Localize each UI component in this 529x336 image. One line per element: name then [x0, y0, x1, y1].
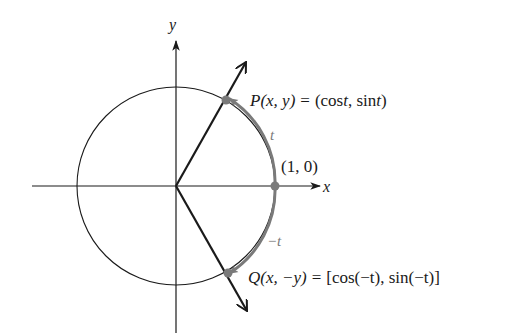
point-q-name: Q — [248, 268, 260, 287]
point-p-equals: = — [300, 91, 310, 110]
arc-negative-t — [229, 186, 275, 274]
arc-positive-t — [229, 99, 275, 187]
ray-to-q — [176, 186, 247, 311]
point-q-value: [cos(−t), sin(−t)] — [326, 268, 440, 287]
y-axis-label: y — [167, 16, 177, 34]
start-point-label: (1, 0) — [281, 157, 318, 176]
arc-label-t: t — [270, 127, 275, 143]
point-p-args: (x, y) — [260, 91, 295, 110]
ray-to-p — [176, 62, 246, 186]
point-q-label: Q(x, −y)=[cos(−t), sin(−t)] — [248, 268, 440, 287]
point-q-equals: = — [312, 268, 322, 287]
point-q-args: (x, −y) — [260, 268, 307, 287]
point-p-marker — [222, 96, 231, 105]
point-p-value-close: ) — [381, 91, 387, 110]
unit-circle-diagram: y x (1, 0) t −t P(x, y)=(cost, sint) Q(x… — [0, 0, 529, 336]
point-p-label: P(x, y)=(cost, sint) — [249, 91, 387, 110]
point-q-marker — [224, 269, 233, 278]
point-p-value-open: (cos — [315, 91, 343, 110]
point-p-value-mid: , sin — [348, 91, 377, 110]
arc-label-minus-t: −t — [267, 233, 282, 249]
point-start-marker — [271, 182, 280, 191]
point-p-name: P — [249, 91, 260, 110]
x-axis-label: x — [322, 178, 330, 195]
